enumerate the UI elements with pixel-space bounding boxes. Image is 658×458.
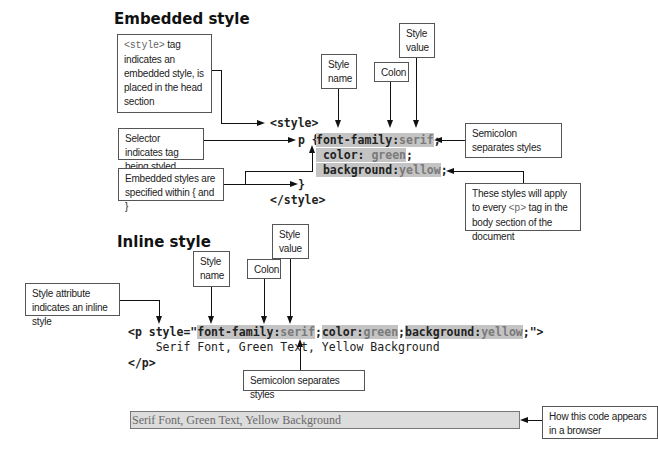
connector-line: [120, 300, 159, 301]
connector-line: [264, 279, 265, 316]
code-line-background: background:yellow;: [316, 163, 448, 178]
code-line-color: color: green;: [316, 148, 413, 163]
style-value-callout: Style value: [399, 23, 435, 58]
connector-line: [454, 171, 524, 172]
selector-callout: Selector indicates tag being styled: [118, 128, 204, 160]
connector-line: [442, 140, 465, 141]
connector-line: [390, 82, 391, 120]
arrow-right-icon: [288, 137, 296, 143]
connector-line: [245, 171, 246, 184]
inline-code-content: Serif Font, Green Text, Yellow Backgroun…: [128, 340, 440, 355]
style-name-callout: Style name: [321, 54, 357, 89]
arrow-right-icon: [257, 120, 265, 126]
arrow-left-icon: [520, 417, 528, 423]
connector-line: [338, 89, 339, 120]
inline-colon-callout: Colon: [247, 259, 281, 279]
arrow-down-icon: [156, 316, 162, 324]
arrow-down-icon: [387, 120, 393, 128]
connector-line: [224, 184, 290, 185]
connector-line: [159, 300, 160, 316]
connector-line: [528, 420, 542, 421]
arrow-down-icon: [287, 316, 293, 324]
style-tag-code: <style>: [124, 40, 165, 51]
connector-line: [221, 70, 222, 123]
connector-line: [312, 152, 313, 172]
style-attribute-callout: Style attribute indicates an inline styl…: [25, 283, 120, 316]
inline-code-close: </p>: [128, 356, 156, 371]
inline-style-name-callout: Style name: [193, 251, 230, 287]
connector-line: [523, 171, 524, 183]
code-close-style-tag: </style>: [270, 193, 325, 208]
connector-line: [290, 259, 291, 316]
connector-line: [245, 171, 312, 172]
apply-callout: These styles will apply to every <p> tag…: [465, 183, 581, 231]
arrow-down-icon: [261, 316, 267, 324]
braces-callout: Embedded styles are specified within { a…: [118, 168, 224, 201]
browser-rendered-output: Serif Font, Green Text, Yellow Backgroun…: [130, 411, 520, 429]
connector-line: [211, 287, 212, 316]
code-close-brace: }: [298, 178, 305, 193]
connector-line: [221, 123, 257, 124]
style-tag-callout: <style> tag indicates an embedded style,…: [117, 34, 212, 113]
colon-callout: Colon: [374, 62, 409, 82]
connector-line: [204, 140, 288, 141]
code-open-style-tag: <style>: [270, 116, 318, 131]
arrow-up-icon: [297, 339, 303, 347]
connector-line: [212, 70, 221, 71]
embedded-style-heading: Embedded style: [114, 10, 250, 28]
inline-style-value-callout: Style value: [272, 224, 309, 259]
semicolon-callout: Semicolon separates styles: [465, 123, 562, 158]
arrow-down-icon: [413, 120, 419, 128]
browser-callout: How this code appears in a browser: [542, 406, 658, 439]
inline-semicolon-callout: Semicolon separates styles: [243, 370, 365, 391]
connector-line: [300, 346, 301, 370]
inline-style-heading: Inline style: [117, 233, 211, 251]
connector-line: [416, 58, 417, 120]
arrow-down-icon: [208, 316, 214, 324]
arrow-left-icon: [434, 137, 442, 143]
arrow-right-icon: [290, 181, 298, 187]
arrow-down-icon: [335, 120, 341, 128]
code-line-font-family: font-family:serif;: [316, 133, 441, 148]
arrow-left-icon: [446, 168, 454, 174]
inline-code-line: <p style="font-family:serif;color:green;…: [128, 325, 544, 340]
